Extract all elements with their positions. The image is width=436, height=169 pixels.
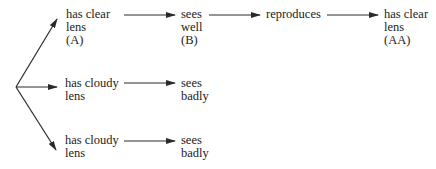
- node-line: badly: [181, 90, 209, 103]
- node-line: reproduces: [266, 8, 321, 21]
- node-sees-badly-1: sees badly: [181, 77, 209, 103]
- node-line: (AA): [384, 34, 428, 47]
- node-reproduces: reproduces: [266, 8, 321, 21]
- node-sees-well-b: sees well (B): [181, 8, 203, 47]
- node-line: (A): [66, 34, 110, 47]
- node-has-cloudy-lens-1: has cloudy lens: [65, 77, 119, 103]
- node-line: badly: [181, 147, 209, 160]
- node-line: lens: [65, 147, 119, 160]
- node-line: (B): [181, 34, 203, 47]
- node-line: lens: [65, 90, 119, 103]
- node-has-clear-lens-a: has clear lens (A): [66, 8, 110, 47]
- node-has-cloudy-lens-2: has cloudy lens: [65, 134, 119, 160]
- node-has-clear-lens-aa: has clear lens (AA): [384, 8, 428, 47]
- branch-arrow-down: [16, 87, 56, 150]
- branch-arrow-up: [16, 19, 57, 87]
- node-sees-badly-2: sees badly: [181, 134, 209, 160]
